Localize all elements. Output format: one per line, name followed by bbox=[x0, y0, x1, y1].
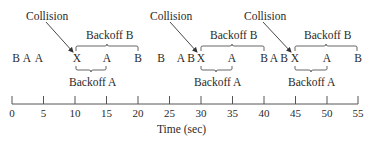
event-b: B bbox=[134, 53, 142, 65]
event-a: A bbox=[323, 53, 331, 65]
event-collision-x: X bbox=[197, 53, 205, 65]
axis-ticks bbox=[12, 96, 358, 104]
tick-label: 10 bbox=[70, 108, 81, 119]
tick-label: 50 bbox=[322, 108, 333, 119]
tick-label: 20 bbox=[133, 108, 144, 119]
backoff-a-label-3: Backoff A bbox=[288, 77, 335, 89]
backoff-b-label-3: Backoff B bbox=[304, 30, 351, 42]
axis-title: Time (sec) bbox=[157, 124, 206, 136]
event-a: A bbox=[103, 53, 111, 65]
event-b: B bbox=[157, 53, 165, 65]
tick-label: 0 bbox=[9, 108, 15, 119]
event-a: A bbox=[177, 53, 185, 65]
collision-label-3: Collision bbox=[244, 11, 286, 23]
tick-label: 30 bbox=[196, 108, 207, 119]
backoff-b-braces bbox=[76, 44, 357, 51]
backoff-a-braces bbox=[76, 66, 327, 72]
event-b: B bbox=[12, 53, 20, 65]
backoff-a-label-2: Backoff A bbox=[194, 77, 241, 89]
backoff-b-label-2: Backoff B bbox=[210, 30, 257, 42]
event-b: B bbox=[187, 53, 195, 65]
backoff-a-label-1: Backoff A bbox=[69, 77, 116, 89]
tick-label: 45 bbox=[290, 108, 301, 119]
collision-label-1: Collision bbox=[26, 11, 68, 23]
event-a: A bbox=[23, 53, 31, 65]
tick-label: 40 bbox=[259, 108, 270, 119]
event-collision-x: X bbox=[291, 53, 299, 65]
backoff-b-label-1: Backoff B bbox=[86, 30, 133, 42]
event-a: A bbox=[228, 53, 236, 65]
event-b: B bbox=[260, 53, 268, 65]
event-a: A bbox=[270, 53, 278, 65]
tick-label: 35 bbox=[227, 108, 238, 119]
tick-label: 55 bbox=[353, 108, 364, 119]
event-collision-x: X bbox=[73, 53, 81, 65]
event-b: B bbox=[280, 53, 288, 65]
tick-label: 25 bbox=[164, 108, 175, 119]
event-b: B bbox=[354, 53, 362, 65]
event-a: A bbox=[35, 53, 43, 65]
collision-label-2: Collision bbox=[150, 11, 192, 23]
tick-label: 5 bbox=[41, 108, 47, 119]
tick-label: 15 bbox=[101, 108, 112, 119]
